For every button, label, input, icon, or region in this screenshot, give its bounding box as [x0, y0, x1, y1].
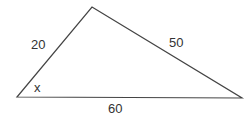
- triangle-diagram: 20 50 60 x: [0, 0, 250, 119]
- side-right-label: 50: [169, 35, 183, 50]
- triangle-shape: [17, 7, 242, 98]
- side-left-label: 20: [31, 37, 45, 52]
- angle-x-label: x: [34, 80, 41, 95]
- side-bottom-label: 60: [108, 101, 122, 116]
